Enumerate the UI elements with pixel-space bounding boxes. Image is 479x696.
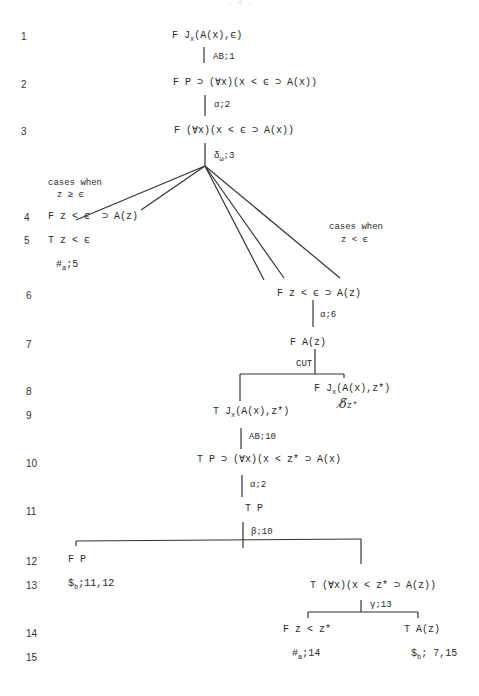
cases-lt-label-1: cases when (329, 222, 383, 233)
handwritten-annotation: δ̸z* (339, 396, 358, 411)
node-8: F Jx(A(x),z*) (314, 383, 390, 395)
node-7: F A(z) (290, 337, 326, 349)
closure-13-ref: ;11,12 (78, 578, 114, 589)
handwritten-var: z* (347, 401, 358, 411)
node-9-prefix: T J (213, 406, 231, 417)
node-5: T z < ϵ (48, 235, 90, 247)
closure-15a-ref: ;14 (302, 648, 320, 659)
cases-lt-label-2: z < ϵ (341, 235, 368, 246)
node-8-prefix: F J (314, 383, 332, 394)
rule-3-suffix: ;3 (224, 151, 235, 161)
node-6: F z < ϵ ⊃ A(z) (277, 288, 361, 300)
node-8-suffix: (A(x),z*) (336, 383, 390, 394)
node-12: F P (68, 554, 86, 566)
rule-10: α;2 (250, 480, 266, 491)
rule-13: γ;13 (370, 600, 392, 611)
closure-15b-ref: ; 7,15 (421, 648, 457, 659)
rule-11: β;10 (251, 527, 273, 538)
node-14-left: F z < z* (283, 624, 331, 636)
rule-6: α;6 (320, 310, 336, 321)
closure-15-right: $b; 7,15 (411, 648, 457, 660)
node-1: F Jx(A(x),ϵ) (172, 30, 242, 42)
node-1-suffix: (A(x),ϵ) (194, 30, 242, 41)
node-13: T (∀x)(x < z* ⊃ A(z)) (310, 580, 436, 592)
rule-3: δω;3 (214, 151, 234, 162)
cases-ge-label-1: cases when (48, 178, 102, 189)
closure-5-ref: ;5 (66, 259, 78, 270)
node-3: F (∀x)(x < ϵ ⊃ A(x)) (174, 125, 294, 137)
handwritten-mark: δ̸ (339, 396, 347, 411)
node-14-right: T A(z) (404, 624, 440, 636)
node-9: T Jx(A(x),z*) (213, 406, 289, 418)
cases-ge-label-2: z ≥ ϵ (57, 190, 84, 201)
node-9-suffix: (A(x),z*) (235, 406, 289, 417)
node-10: T P ⊃ (∀x)(x < z* ⊃ A(x) (197, 454, 341, 466)
node-4: F z < ϵ ⊃ A(z) (48, 211, 138, 223)
node-11: T P (245, 503, 263, 515)
rule-cut: CUT (296, 359, 312, 370)
node-2: F P ⊃ (∀x)(x < ϵ ⊃ A(x)) (173, 77, 317, 89)
node-1-prefix: F J (172, 30, 190, 41)
closure-13: $b;11,12 (68, 578, 114, 590)
rule-2: α;2 (214, 100, 230, 111)
closure-5: #a;5 (56, 259, 78, 271)
rule-1: AB;1 (213, 52, 235, 63)
rule-9: AB;10 (249, 432, 276, 443)
closure-15-left: #a;14 (292, 648, 320, 660)
